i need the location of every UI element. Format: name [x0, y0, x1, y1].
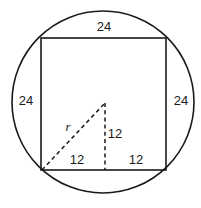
- label-bottom-right-segment: 12: [129, 152, 143, 167]
- geometry-canvas: 24 24 24 r 12 12 12: [0, 0, 201, 208]
- label-vertical-segment: 12: [108, 126, 122, 141]
- geometry-figure: 24 24 24 r 12 12 12: [0, 0, 201, 208]
- label-radius: r: [65, 119, 71, 134]
- label-left-side: 24: [19, 93, 33, 108]
- label-right-side: 24: [174, 93, 188, 108]
- label-bottom-left-segment: 12: [70, 152, 84, 167]
- label-top-side: 24: [97, 19, 111, 34]
